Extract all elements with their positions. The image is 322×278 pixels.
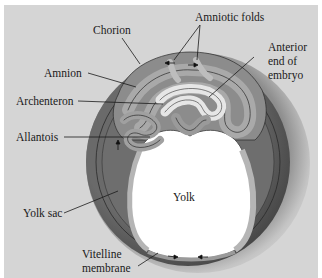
label-vitelline-1: Vitelline: [82, 248, 122, 260]
label-allantois: Allantois: [16, 131, 58, 143]
label-anterior-end-1: Anterior: [268, 41, 307, 53]
label-anterior-end-2: end of: [268, 55, 297, 67]
label-anterior-end-3: embryo: [268, 69, 303, 81]
label-chorion: Chorion: [93, 24, 131, 36]
label-yolk-sac: Yolk sac: [23, 207, 62, 219]
label-vitelline-2: membrane: [82, 262, 131, 274]
label-amnion: Amnion: [44, 67, 82, 79]
label-amniotic-folds: Amniotic folds: [195, 11, 264, 23]
label-yolk: Yolk: [173, 191, 195, 203]
label-archenteron: Archenteron: [16, 95, 73, 107]
